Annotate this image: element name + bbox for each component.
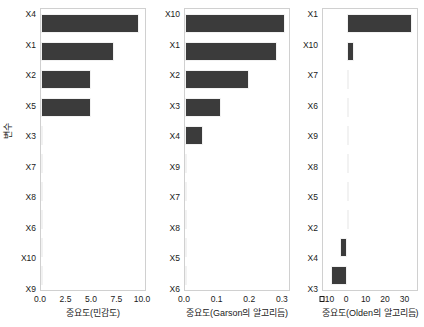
bar-row — [185, 121, 289, 149]
panel-garson: X10X1X2X3X4X9X7X8X5X6 0.00.10.20.3 중요도(G… — [150, 0, 294, 327]
x-tick-label: 0.3 — [276, 294, 288, 304]
x-axis-title-panel-3: 중요도(Olden의 알고리듬) — [322, 308, 418, 319]
y-tick-label: X10 — [21, 254, 36, 263]
y-tick-label: X6 — [308, 102, 318, 111]
panel-olden: X1X10X7X6X9X8X5X2X4X3 100102030 중요도(Olde… — [294, 0, 424, 327]
bar-row — [185, 65, 289, 93]
bar-row — [41, 9, 145, 37]
bar-row — [185, 37, 289, 65]
bar — [185, 182, 187, 201]
bar-row — [41, 178, 145, 206]
bar — [185, 126, 203, 145]
x-tick-label-text: 10 — [325, 294, 334, 304]
x-tick-label: 0.2 — [243, 294, 255, 304]
bar — [41, 98, 91, 117]
bar-row — [185, 262, 289, 290]
bar-row — [323, 178, 417, 206]
bar — [347, 14, 412, 33]
bar-row — [323, 9, 417, 37]
x-tick-labels-panel-1: 0.02.55.07.510.0 — [40, 294, 146, 306]
bar-row — [323, 149, 417, 177]
x-tick-label: 0.0 — [178, 294, 190, 304]
missing-glyph-minus-icon — [319, 296, 324, 302]
bar-row — [41, 234, 145, 262]
y-tick-label: X9 — [170, 163, 180, 172]
y-tick-label: X1 — [170, 41, 180, 50]
y-tick-label: X4 — [26, 10, 36, 19]
x-tick-label: 30 — [400, 294, 409, 304]
bar — [347, 98, 349, 117]
y-tick-label: X5 — [170, 254, 180, 263]
y-tick-label: X10 — [165, 10, 180, 19]
bar-row — [185, 178, 289, 206]
bar-row — [41, 93, 145, 121]
y-tick-label: X3 — [26, 132, 36, 141]
bar — [185, 266, 187, 285]
bar-row — [185, 206, 289, 234]
x-tick-label: 0.1 — [211, 294, 223, 304]
bar — [340, 238, 347, 257]
x-axis-title-panel-2: 중요도(Garson의 알고리듬) — [184, 308, 290, 319]
y-tick-labels-panel-2: X10X1X2X3X4X9X7X8X5X6 — [158, 10, 180, 293]
y-axis-title: 변수 — [4, 123, 13, 139]
y-tick-label: X1 — [26, 41, 36, 50]
y-tick-label: X5 — [308, 193, 318, 202]
x-tick-label: 10 — [361, 294, 370, 304]
y-tick-label: X6 — [26, 224, 36, 233]
bar-row — [185, 9, 289, 37]
bar — [347, 42, 354, 61]
x-tick-label: 0 — [344, 294, 349, 304]
bar-row — [41, 262, 145, 290]
y-tick-label: X6 — [170, 285, 180, 294]
y-tick-label: X3 — [170, 102, 180, 111]
x-tick-label: 10.0 — [134, 294, 151, 304]
y-tick-label: X3 — [308, 285, 318, 294]
y-tick-label: X1 — [308, 10, 318, 19]
bar — [185, 98, 221, 117]
bar — [185, 42, 277, 61]
x-tick-label: 5.0 — [85, 294, 97, 304]
bar — [347, 210, 349, 229]
bar — [331, 266, 347, 285]
bar-row — [323, 121, 417, 149]
y-tick-label: X4 — [170, 132, 180, 141]
bar — [41, 14, 139, 33]
y-tick-label: X4 — [308, 254, 318, 263]
y-tick-label: X8 — [26, 193, 36, 202]
bar — [41, 154, 43, 173]
bar — [41, 266, 43, 285]
y-tick-label: X8 — [170, 224, 180, 233]
bar-row — [41, 121, 145, 149]
bar — [185, 210, 187, 229]
bar-row — [185, 149, 289, 177]
bar — [185, 14, 285, 33]
bar — [347, 126, 349, 145]
bar — [41, 42, 114, 61]
y-tick-label: X9 — [26, 285, 36, 294]
x-tick-label: 0.0 — [34, 294, 46, 304]
bar — [41, 210, 43, 229]
plot-area-panel-1 — [40, 8, 146, 291]
x-tick-label: 2.5 — [60, 294, 72, 304]
bar-row — [323, 93, 417, 121]
importance-bar-chart-figure: 변수 X4X1X2X5X3X7X8X6X10X9 0.02.55.07.510.… — [0, 0, 424, 327]
y-tick-label: X7 — [308, 71, 318, 80]
bar-row — [41, 206, 145, 234]
bar-row — [323, 262, 417, 290]
bar — [347, 154, 349, 173]
bar-row — [323, 206, 417, 234]
y-tick-label: X7 — [170, 193, 180, 202]
bar — [41, 182, 43, 201]
y-tick-label: X2 — [170, 71, 180, 80]
x-tick-label: 10 — [319, 294, 334, 304]
bar — [185, 154, 187, 173]
bar — [41, 70, 91, 89]
y-tick-label: X10 — [303, 41, 318, 50]
bar — [347, 182, 349, 201]
bar — [41, 126, 43, 145]
y-tick-labels-panel-3: X1X10X7X6X9X8X5X2X4X3 — [296, 10, 318, 293]
plot-area-panel-2 — [184, 8, 290, 291]
x-axis-title-panel-1: 중요도(민감도) — [40, 308, 146, 319]
y-tick-labels-panel-1: X4X1X2X5X3X7X8X6X10X9 — [14, 10, 36, 293]
x-tick-labels-panel-2: 0.00.10.20.3 — [184, 294, 290, 306]
